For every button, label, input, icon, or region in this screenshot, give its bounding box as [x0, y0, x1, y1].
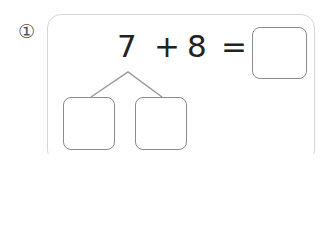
decompose-right-box[interactable] — [135, 97, 187, 150]
decompose-left-box[interactable] — [63, 97, 115, 150]
